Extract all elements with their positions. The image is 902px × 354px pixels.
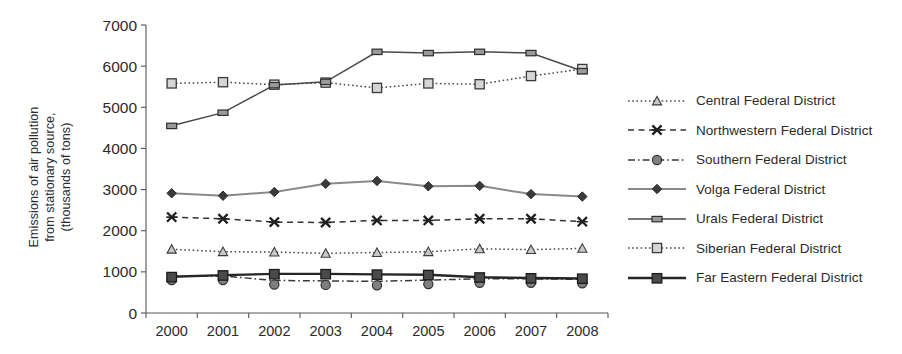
y-tick-label: 3000	[103, 181, 138, 198]
legend-item-label: Central Federal District	[688, 93, 835, 108]
data-point-marker	[577, 68, 587, 73]
data-point-marker	[526, 71, 535, 80]
data-point-marker	[372, 216, 383, 225]
plot-area: 0100020003000400050006000700020002001200…	[100, 8, 620, 354]
data-point-marker	[218, 191, 227, 200]
data-point-marker	[475, 80, 484, 89]
legend-item-southern-federal-district[interactable]: Southern Federal District	[626, 145, 902, 175]
data-point-marker	[578, 274, 588, 283]
x-tick-label: 2007	[515, 323, 547, 339]
data-point-marker	[269, 82, 279, 87]
y-axis-ticks: 01000200030004000500060007000	[103, 17, 146, 322]
data-point-marker	[475, 181, 484, 190]
data-point-marker	[372, 49, 382, 54]
legend-item-label: Northwestern Federal District	[688, 123, 872, 138]
legend-item-northwestern-federal-district[interactable]: Northwestern Federal District	[626, 116, 902, 146]
y-tick-label: 0	[128, 305, 137, 322]
data-point-marker	[652, 244, 661, 253]
series-central-federal-district	[167, 244, 587, 257]
data-point-marker	[218, 214, 229, 223]
data-point-marker	[321, 179, 330, 188]
legend-key-swatch	[626, 268, 688, 288]
series-northwestern-federal-district	[166, 213, 587, 228]
data-point-marker	[372, 270, 382, 279]
data-point-marker	[424, 270, 434, 279]
x-tick-label: 2001	[207, 323, 239, 339]
legend-item-volga-federal-district[interactable]: Volga Federal District	[626, 175, 902, 205]
legend-item-label: Southern Federal District	[688, 152, 847, 167]
y-axis-title-line-2: from stationary source,	[42, 107, 58, 248]
data-point-marker	[218, 110, 228, 115]
data-point-marker	[652, 126, 663, 135]
x-tick-label: 2008	[566, 323, 598, 339]
legend-key-swatch	[626, 150, 688, 170]
data-point-marker	[321, 249, 330, 258]
data-point-marker	[372, 176, 381, 185]
data-point-marker	[423, 50, 433, 55]
data-point-marker	[424, 279, 433, 288]
legend-key-swatch	[626, 238, 688, 258]
legend-item-central-federal-district[interactable]: Central Federal District	[626, 86, 902, 116]
y-tick-label: 4000	[103, 140, 138, 157]
data-point-marker	[423, 216, 434, 225]
y-tick-label: 1000	[103, 263, 138, 280]
data-point-marker	[372, 83, 381, 92]
plot-svg: 0100020003000400050006000700020002001200…	[100, 8, 620, 354]
series-siberian-federal-district	[167, 64, 587, 92]
legend-item-label: Volga Federal District	[688, 182, 825, 197]
legend-item-label: Far Eastern Federal District	[688, 270, 862, 285]
legend-key-swatch	[626, 120, 688, 140]
data-point-marker	[526, 274, 536, 283]
data-point-marker	[321, 270, 331, 279]
x-tick-label: 2004	[361, 323, 393, 339]
x-tick-label: 2005	[412, 323, 444, 339]
chart-figure: Emissions of air pollution from stationa…	[0, 0, 902, 354]
y-axis-title: Emissions of air pollution from stationa…	[0, 0, 100, 354]
legend-item-urals-federal-district[interactable]: Urals Federal District	[626, 204, 902, 234]
x-tick-label: 2002	[258, 323, 290, 339]
data-point-marker	[218, 271, 228, 280]
legend-item-label: Urals Federal District	[688, 211, 823, 226]
legend-key-swatch	[626, 179, 688, 199]
y-tick-label: 5000	[103, 99, 138, 116]
data-point-marker	[167, 123, 177, 128]
data-point-marker	[475, 49, 485, 54]
data-point-marker	[269, 217, 280, 226]
legend-item-siberian-federal-district[interactable]: Siberian Federal District	[626, 234, 902, 264]
chart-legend: Central Federal DistrictNorthwestern Fed…	[626, 86, 902, 293]
data-point-marker	[652, 155, 661, 164]
data-point-marker	[578, 192, 587, 201]
data-point-marker	[167, 189, 176, 198]
data-point-marker	[526, 214, 537, 223]
data-point-marker	[372, 281, 381, 290]
data-point-marker	[270, 187, 279, 196]
data-point-marker	[424, 79, 433, 88]
data-point-marker	[424, 182, 433, 191]
data-point-marker	[167, 245, 176, 254]
y-axis-title-line-3: (thousands of tons)	[58, 107, 74, 248]
legend-key-swatch	[626, 209, 688, 229]
x-tick-label: 2006	[464, 323, 496, 339]
y-axis-title-line-1: Emissions of air pollution	[26, 107, 42, 248]
data-point-marker	[577, 217, 588, 226]
data-point-marker	[475, 273, 485, 282]
x-tick-label: 2000	[156, 323, 188, 339]
legend-key-swatch	[626, 91, 688, 111]
data-point-marker	[166, 213, 177, 222]
data-point-marker	[652, 216, 662, 221]
data-point-marker	[474, 214, 485, 223]
data-point-marker	[270, 270, 280, 279]
data-point-marker	[652, 273, 662, 282]
y-tick-label: 6000	[103, 58, 138, 75]
legend-item-far-eastern-federal-district[interactable]: Far Eastern Federal District	[626, 263, 902, 293]
data-point-marker	[652, 185, 661, 194]
y-tick-label: 7000	[103, 17, 138, 34]
data-point-marker	[167, 79, 176, 88]
data-point-marker	[526, 50, 536, 55]
series-volga-federal-district	[167, 176, 587, 201]
data-point-marker	[270, 280, 279, 289]
x-tick-label: 2003	[310, 323, 342, 339]
y-tick-label: 2000	[103, 222, 138, 239]
data-point-marker	[321, 79, 331, 84]
x-axis-ticks: 200020012002200320042005200620072008	[146, 313, 608, 339]
